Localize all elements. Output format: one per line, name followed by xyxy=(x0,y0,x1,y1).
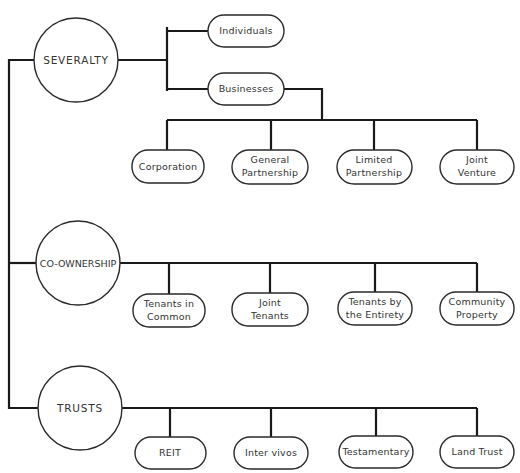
reit-label: REIT xyxy=(159,447,181,458)
tenants-by-entirety-line2: the Entirety xyxy=(346,309,404,320)
general-partnership-line2: Partnership xyxy=(242,167,298,178)
category-severalty: SEVERALTY xyxy=(34,18,118,102)
community-property-line1: Community xyxy=(449,296,506,307)
node-reit: REIT xyxy=(135,437,206,469)
node-joint-tenants: Joint Tenants xyxy=(232,293,308,326)
joint-venture-line2: Venture xyxy=(458,167,496,178)
node-tenants-in-common: Tenants in Common xyxy=(133,294,205,327)
category-coownership: CO-OWNERSHIP xyxy=(36,221,120,305)
individuals-label: Individuals xyxy=(219,25,272,36)
node-businesses: Businesses xyxy=(208,73,284,105)
tenants-in-common-line1: Tenants in xyxy=(143,298,194,309)
node-tenants-by-entirety: Tenants by the Entirety xyxy=(338,292,412,325)
land-trust-label: Land Trust xyxy=(451,446,502,457)
limited-partnership-line1: Limited xyxy=(356,154,393,165)
spine-line xyxy=(9,60,38,408)
businesses-connector xyxy=(283,89,322,120)
node-corporation: Corporation xyxy=(132,150,204,183)
trusts-bar xyxy=(122,408,477,438)
trusts-label: TRUSTS xyxy=(56,402,103,414)
joint-venture-line1: Joint xyxy=(465,154,488,165)
joint-tenants-line2: Tenants xyxy=(250,310,289,321)
node-land-trust: Land Trust xyxy=(440,436,514,468)
node-individuals: Individuals xyxy=(208,15,284,47)
businesses-label: Businesses xyxy=(219,83,274,94)
node-joint-venture: Joint Venture xyxy=(440,150,514,184)
corporation-label: Corporation xyxy=(139,161,197,172)
node-testamentary: Testamentary xyxy=(339,436,413,468)
businesses-bar xyxy=(167,120,477,152)
coownership-bar xyxy=(120,263,477,295)
node-general-partnership: General Partnership xyxy=(232,150,308,184)
testamentary-label: Testamentary xyxy=(341,446,409,457)
node-inter-vivos: Inter vivos xyxy=(234,437,308,469)
ownership-tree-diagram: SEVERALTY CO-OWNERSHIP TRUSTS Individual… xyxy=(0,0,520,473)
severalty-connector xyxy=(118,27,208,91)
community-property-line2: Property xyxy=(456,309,498,320)
general-partnership-line1: General xyxy=(251,154,290,165)
node-community-property: Community Property xyxy=(440,292,514,325)
severalty-label: SEVERALTY xyxy=(43,54,109,66)
tenants-by-entirety-line1: Tenants by xyxy=(347,296,401,307)
tenants-in-common-line2: Common xyxy=(147,311,191,322)
joint-tenants-line1: Joint xyxy=(258,297,281,308)
inter-vivos-label: Inter vivos xyxy=(245,447,297,458)
limited-partnership-line2: Partnership xyxy=(346,167,402,178)
category-trusts: TRUSTS xyxy=(38,366,122,450)
node-limited-partnership: Limited Partnership xyxy=(337,150,412,184)
coownership-label: CO-OWNERSHIP xyxy=(40,258,117,269)
